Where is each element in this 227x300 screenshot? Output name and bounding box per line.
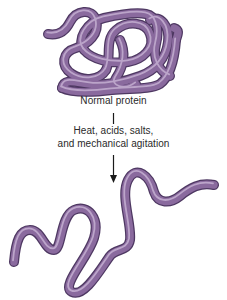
folded-protein-illustration: [47, 10, 178, 92]
normal-protein-label: Normal protein: [0, 95, 227, 107]
unfolded-protein-illustration: [13, 171, 214, 293]
denaturing-conditions-line1: Heat, acids, salts,: [0, 125, 227, 137]
down-arrow-icon: [110, 155, 117, 183]
diagram-canvas: [0, 0, 227, 300]
denaturing-conditions-line2: and mechanical agitation: [0, 138, 227, 150]
